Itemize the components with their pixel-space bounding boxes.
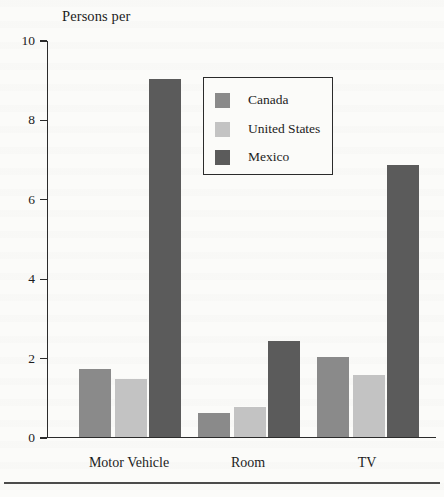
x-axis-label-room: Room [231,455,265,471]
legend-item-mexico: Mexico [215,148,326,166]
bar-canada-room [198,413,230,437]
bar-group [79,41,181,437]
bar-united-states-tv [353,375,385,437]
y-axis-tick-label: 2 [28,352,35,366]
y-axis-tick-label: 8 [28,113,35,127]
bar-chart-figure: Persons per 0246810 Motor VehicleRoomTV … [0,0,444,497]
chart-legend: Canada United States Mexico [203,77,333,175]
legend-label-mexico: Mexico [248,149,289,165]
legend-item-united-states: United States [215,120,326,138]
legend-label-canada: Canada [248,92,288,108]
y-axis-tick: 10 [40,40,47,41]
bar-mexico-tv [387,165,419,437]
y-axis-tick-label: 4 [28,272,35,286]
chart-title: Persons per [62,8,130,25]
bar-mexico-motor-vehicle [149,79,181,436]
y-axis-tick-label: 0 [28,431,35,445]
bar-united-states-room [234,407,266,437]
y-axis-tick: 2 [40,358,47,359]
bar-canada-tv [317,357,349,436]
legend-swatch-canada [215,93,230,108]
bar-united-states-motor-vehicle [115,379,147,437]
page-bottom-rule [4,482,440,484]
y-axis-tick-label: 6 [28,193,35,207]
bar-canada-motor-vehicle [79,369,111,436]
legend-label-united-states: United States [248,121,320,137]
bar-mexico-room [268,341,300,436]
y-axis-tick: 0 [40,437,47,438]
y-axis-tick: 8 [40,120,47,121]
x-axis-label-tv: TV [358,455,377,471]
legend-swatch-united-states [215,122,230,137]
legend-swatch-mexico [215,150,230,165]
y-axis-tick: 6 [40,199,47,200]
y-axis-tick: 4 [40,279,47,280]
x-axis-label-motor-vehicle: Motor Vehicle [89,455,169,471]
legend-item-canada: Canada [215,91,326,109]
x-axis-line [47,437,436,438]
y-axis-tick-label: 10 [22,34,36,48]
